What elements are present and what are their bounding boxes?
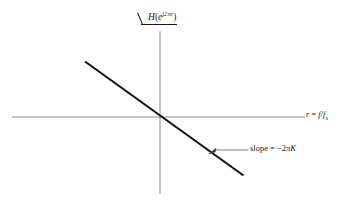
x-axis-label: r = f/fs <box>306 110 328 119</box>
slope-annotation-constant: K <box>290 143 296 153</box>
angle-underline-icon <box>141 24 177 25</box>
phase-response-figure: H(ej2πr) r = f/fs slope = −2πK <box>0 0 350 204</box>
y-axis-label-function: H <box>148 12 155 22</box>
slope-annotation-prefix: slope <box>250 143 268 153</box>
y-axis-label: H(ej2πr) <box>141 13 177 25</box>
y-axis-label-close-paren: ) <box>173 12 176 22</box>
y-axis-label-exponent: j2πr <box>162 10 173 17</box>
x-axis-label-equals: = <box>309 109 318 119</box>
slope-annotation-equals: = <box>268 143 277 153</box>
slope-annotation-label: slope = −2πK <box>250 144 296 153</box>
phase-response-line <box>85 62 244 176</box>
angle-notation-group: H(ej2πr) <box>141 13 177 25</box>
x-axis-label-subscript: s <box>325 114 328 121</box>
plot-canvas <box>0 0 350 204</box>
